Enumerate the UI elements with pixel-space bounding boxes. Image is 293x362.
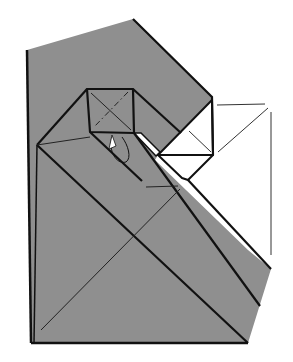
paper-body: [27, 19, 271, 343]
diagram-canvas: [0, 0, 293, 362]
flap-guide-diagonal: [218, 108, 268, 152]
flap-guide-top: [217, 104, 265, 105]
